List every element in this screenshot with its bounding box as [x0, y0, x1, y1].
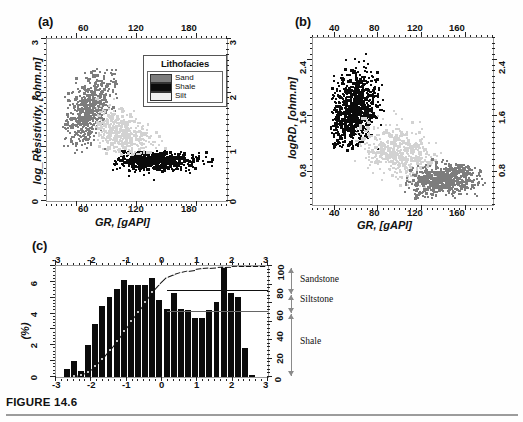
legend-item-shale[interactable]: Shale [150, 83, 220, 91]
scatter-point [364, 106, 367, 109]
scatter-point [445, 176, 447, 178]
scatter-point [134, 151, 136, 153]
scatter-point [84, 107, 86, 109]
scatter-point [400, 149, 402, 151]
scatter-point [77, 88, 79, 90]
scatter-point [77, 108, 80, 111]
caption-rule [6, 414, 518, 416]
scatter-point [460, 166, 462, 168]
panel-a-legend[interactable]: Lithofacies Sand Shale Silt [143, 55, 227, 107]
scatter-point [357, 114, 359, 116]
scatter-point [81, 111, 83, 113]
scatter-point [185, 167, 187, 169]
scatter-point [93, 94, 95, 96]
scatter-point [64, 96, 66, 98]
scatter-point [451, 193, 453, 195]
scatter-point [393, 145, 395, 147]
scatter-point [383, 143, 385, 145]
scatter-point [81, 151, 83, 153]
scatter-point [131, 162, 133, 164]
scatter-point [417, 197, 419, 199]
scatter-point [94, 70, 96, 72]
scatter-point [97, 139, 99, 141]
scatter-point [419, 185, 421, 187]
scatter-point [93, 139, 95, 141]
scatter-point [450, 180, 452, 182]
scatter-point [141, 126, 143, 128]
scatter-point [122, 123, 124, 125]
scatter-point [334, 92, 336, 94]
scatter-point [104, 111, 106, 113]
scatter-point [374, 146, 376, 148]
scatter-point [385, 161, 387, 163]
scatter-point [161, 140, 163, 142]
scatter-point [366, 92, 368, 94]
scatter-point [101, 93, 103, 95]
scatter-point [360, 120, 362, 122]
scatter-point [160, 164, 162, 166]
scatter-point [131, 116, 133, 118]
scatter-point [83, 103, 85, 105]
scatter-point [392, 130, 394, 132]
legend-item-silt[interactable]: Silt [150, 92, 220, 100]
scatter-point [423, 136, 425, 138]
scatter-point [331, 111, 333, 113]
scatter-point [139, 122, 141, 124]
scatter-point [427, 186, 429, 188]
scatter-point [383, 172, 385, 174]
scatter-point [372, 98, 374, 100]
panel-b: (b) 40 80 120 160 40 80 120 160 2.4 1.6 … [262, 0, 523, 232]
scatter-point [336, 90, 338, 92]
scatter-point [371, 80, 373, 82]
scatter-point [171, 168, 173, 170]
scatter-point [479, 175, 481, 177]
scatter-point [424, 196, 426, 198]
scatter-point [379, 138, 381, 140]
scatter-point [118, 150, 121, 153]
scatter-point [77, 105, 79, 107]
scatter-point [389, 169, 391, 171]
scatter-point [375, 105, 377, 107]
scatter-point [72, 127, 74, 129]
scatter-point [150, 135, 152, 137]
scatter-point [97, 97, 99, 99]
scatter-point [150, 151, 152, 153]
scatter-point [408, 142, 410, 144]
scatter-point [369, 99, 371, 101]
scatter-point [105, 126, 107, 128]
scatter-point [479, 169, 481, 171]
scatter-point [90, 142, 92, 144]
scatter-point [448, 177, 450, 179]
scatter-point [112, 139, 114, 141]
scatter-point [459, 185, 461, 187]
scatter-point [421, 182, 423, 184]
legend-swatch-shale [150, 83, 172, 92]
scatter-point [116, 125, 118, 127]
scatter-point [405, 147, 407, 149]
scatter-point [369, 118, 371, 120]
scatter-point [161, 154, 163, 156]
legend-item-sand[interactable]: Sand [150, 74, 220, 82]
scatter-point [69, 132, 71, 134]
scatter-point [360, 96, 362, 98]
scatter-point [354, 103, 356, 105]
scatter-point [211, 165, 213, 167]
scatter-point [382, 99, 384, 101]
scatter-point [435, 168, 437, 170]
scatter-point [441, 161, 443, 163]
scatter-point [364, 143, 366, 145]
scatter-point [104, 120, 106, 122]
scatter-point [371, 111, 373, 113]
panel-a-tag: (a) [38, 14, 53, 29]
scatter-point [176, 168, 178, 170]
legend-title: Lithofacies [147, 58, 223, 69]
scatter-point [127, 128, 130, 131]
scatter-point [124, 133, 126, 135]
scatter-point [447, 183, 449, 185]
scatter-point [94, 85, 96, 87]
scatter-point [374, 152, 376, 154]
scatter-point [391, 174, 394, 177]
scatter-point [166, 151, 168, 153]
scatter-point [406, 177, 408, 179]
scatter-point [91, 131, 93, 133]
